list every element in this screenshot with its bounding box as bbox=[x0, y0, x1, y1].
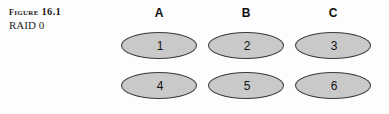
figure-caption: Figure 16.1 RAID 0 bbox=[9, 5, 114, 32]
figure-raid-0: Figure 16.1 RAID 0 A B C 1 2 3 bbox=[0, 0, 389, 114]
stripe-row: 1 2 3 bbox=[121, 32, 371, 59]
stripe-cell: 6 bbox=[295, 72, 371, 99]
stripe-number-label: 6 bbox=[295, 72, 371, 99]
column-header-a: A bbox=[121, 6, 197, 22]
stripe-cell: 5 bbox=[208, 72, 284, 99]
stripe-number-label: 4 bbox=[121, 72, 197, 99]
stripe-cell: 1 bbox=[121, 32, 197, 59]
stripe-cell: 2 bbox=[208, 32, 284, 59]
stripe-number-label: 3 bbox=[295, 32, 371, 59]
raid-stripe-grid: A B C 1 2 3 4 5 bbox=[121, 0, 371, 114]
stripe-row: 4 5 6 bbox=[121, 72, 371, 99]
column-header-row: A B C bbox=[121, 6, 371, 22]
column-header-b: B bbox=[208, 6, 284, 22]
stripe-cell: 3 bbox=[295, 32, 371, 59]
stripe-number-label: 5 bbox=[208, 72, 284, 99]
column-header-c: C bbox=[295, 6, 371, 22]
stripe-cell: 4 bbox=[121, 72, 197, 99]
figure-number-label: Figure 16.1 bbox=[9, 5, 114, 18]
stripe-number-label: 1 bbox=[121, 32, 197, 59]
stripe-number-label: 2 bbox=[208, 32, 284, 59]
figure-title: RAID 0 bbox=[9, 19, 114, 32]
